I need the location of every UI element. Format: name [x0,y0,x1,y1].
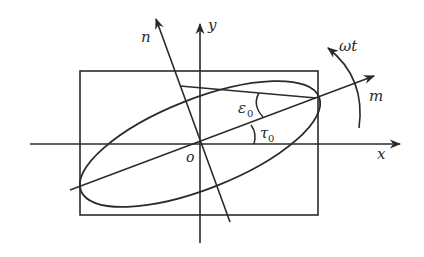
ellipticity-angle-arc [256,93,263,117]
ellipticity-label: ε 0 [238,99,253,119]
y-axis-label: y [207,16,217,34]
n-axis [156,19,230,222]
svg-text:ε: ε [238,99,246,117]
rotation-label: ωt [339,37,358,55]
azimuth-angle-arc [251,125,255,144]
m-axis [70,76,374,190]
n-axis-label: n [141,28,151,46]
bounding-rectangle [80,71,318,215]
svg-text:0: 0 [268,133,274,144]
azimuth-label: τ 0 [260,124,274,144]
origin-label: o [186,149,194,165]
x-axis-label: x [377,145,386,163]
polarization-ellipse-diagram: x y m n o ε 0 τ 0 ωt [0,0,424,257]
m-axis-label: m [369,87,383,105]
svg-text:0: 0 [247,108,253,119]
